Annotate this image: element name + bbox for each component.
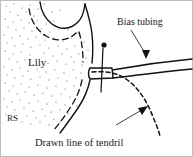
pin-head-icon [101,42,106,47]
bias-tubing-lower-edge [113,69,192,78]
bias-tubing-leader-line [131,30,145,53]
lily-outline-right-lower [60,80,90,133]
bias-tubing-label: Bias tubing [117,16,163,27]
bias-tubing-upper-edge [113,59,192,70]
lily-inner-dashed-arc-right [79,32,83,62]
bias-tubing-arrowhead-icon [142,50,150,59]
tendril-caption-leader-line [116,111,140,125]
pin-shaft [101,48,103,92]
diagram-canvas: Lily RS Bias tubing Drawn line of tendri… [0,0,193,157]
tendril-diagram-figure: Lily RS Bias tubing Drawn line of tendri… [0,0,193,157]
lily-outline-right-upper [85,4,93,63]
drawn-tendril-line [92,72,160,136]
tubing-connector-block [89,68,114,79]
lily-label: Lily [28,56,47,68]
tendril-caption-label: Drawn line of tendril [35,137,123,148]
tendril-caption-arrowhead-icon [138,106,148,115]
lily-outline-top-scallop [40,2,85,28]
rs-label: RS [7,113,18,123]
